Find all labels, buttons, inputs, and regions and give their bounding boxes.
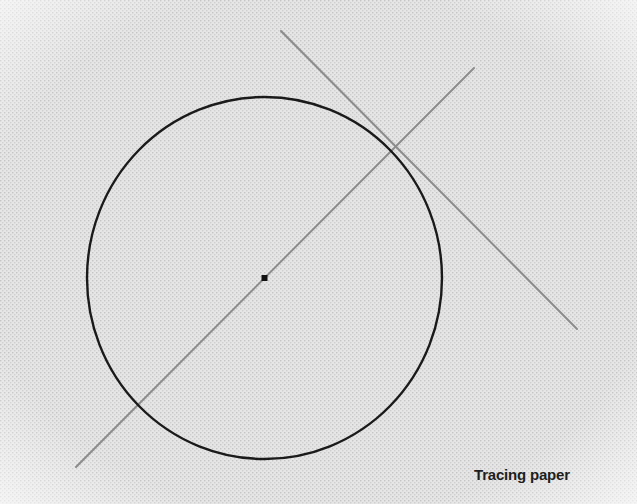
- center-point: [262, 275, 268, 281]
- paper-edge-fade: [0, 0, 637, 504]
- figure-label: Tracing paper: [474, 466, 570, 483]
- tracing-paper-diagram: [0, 0, 637, 504]
